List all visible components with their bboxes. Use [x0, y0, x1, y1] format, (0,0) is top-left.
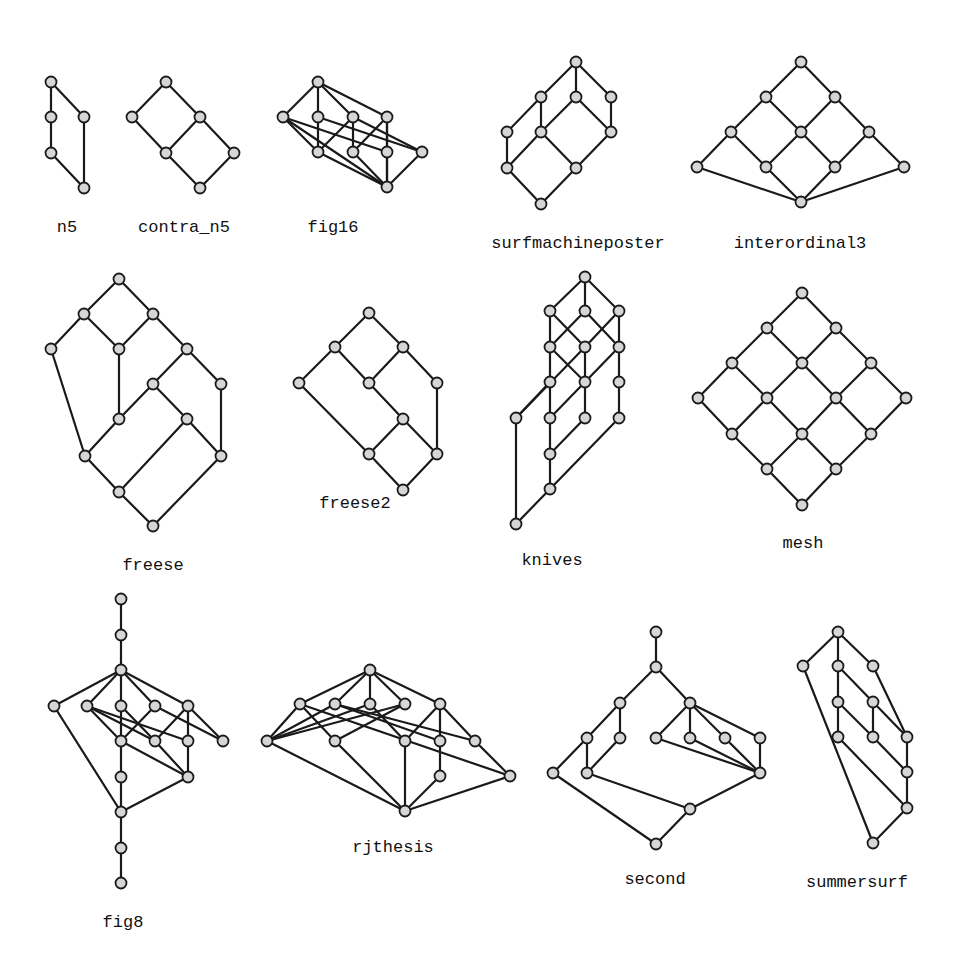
lattice-node — [727, 358, 738, 369]
lattice-node — [116, 807, 127, 818]
lattice-edge — [835, 132, 869, 167]
lattice-node — [435, 736, 446, 747]
lattice-node — [46, 112, 57, 123]
lattice-edge — [869, 132, 904, 167]
lattice-node — [183, 736, 194, 747]
lattice-edge — [200, 117, 234, 153]
lattice-node — [400, 736, 411, 747]
lattice-node — [114, 414, 125, 425]
lattice-node — [511, 413, 522, 424]
lattice-edge — [200, 153, 234, 188]
lattice-node — [116, 594, 127, 605]
lattice-node — [797, 358, 808, 369]
lattice-edge — [507, 97, 541, 132]
lattice-edge — [836, 434, 871, 469]
lattice-edge — [731, 97, 766, 132]
lattice-edge — [369, 419, 403, 454]
diagram-label: contra_n5 — [138, 218, 230, 237]
lattice-edge — [802, 434, 836, 469]
lattice-node — [866, 358, 877, 369]
lattice-node — [901, 393, 912, 404]
lattice-edge — [51, 349, 85, 456]
lattice-edge — [732, 434, 767, 469]
lattice-node — [615, 733, 626, 744]
lattice-node — [796, 127, 807, 138]
lattice-node — [833, 697, 844, 708]
lattice-node — [762, 464, 773, 475]
lattice-edge — [550, 418, 585, 454]
lattice-mesh: mesh — [693, 288, 912, 554]
lattice-edge — [84, 279, 119, 314]
lattice-node — [868, 732, 879, 743]
lattice-node — [382, 182, 393, 193]
lattice-edge — [836, 398, 871, 434]
lattice-node — [614, 342, 625, 353]
lattice-node — [46, 148, 57, 159]
lattice-node — [797, 429, 808, 440]
lattice-edge — [51, 153, 84, 188]
lattice-node — [114, 344, 125, 355]
lattice-edge — [119, 419, 187, 492]
lattice-edge — [155, 741, 188, 777]
lattice-edge — [873, 737, 907, 772]
lattice-edge — [51, 314, 84, 349]
lattice-node — [182, 414, 193, 425]
lattice-node — [278, 112, 289, 123]
lattice-edge — [553, 773, 656, 844]
lattice-summersurf: summersurf — [798, 627, 913, 893]
diagram-label: freese2 — [319, 494, 390, 513]
lattice-edge — [767, 328, 802, 363]
diagram-label: surfmachineposter — [491, 234, 664, 253]
lattice-edge — [732, 328, 767, 363]
lattice-node — [398, 485, 409, 496]
lattice-node — [833, 732, 844, 743]
lattice-edge — [188, 706, 223, 741]
lattice-edge — [507, 168, 541, 204]
lattice-node — [365, 665, 376, 676]
lattice-edge — [802, 293, 836, 328]
lattice-edge — [766, 62, 801, 97]
lattice-node — [868, 661, 879, 672]
lattice-edge — [387, 152, 422, 187]
lattice-node — [868, 838, 879, 849]
lattice-node — [899, 162, 910, 173]
lattice-node — [511, 519, 522, 530]
lattice-node — [313, 147, 324, 158]
lattice-node — [330, 342, 341, 353]
lattice-node — [502, 163, 513, 174]
lattice-node — [364, 378, 375, 389]
lattice-n5: n5 — [46, 77, 90, 238]
lattice-node — [330, 736, 341, 747]
diagram-label: second — [624, 870, 685, 889]
diagram-label: rjthesis — [352, 838, 434, 857]
lattice-node — [571, 57, 582, 68]
lattice-node — [114, 487, 125, 498]
lattice-node — [651, 839, 662, 850]
lattice-edge — [620, 667, 656, 703]
lattice-node — [755, 768, 766, 779]
lattice-node — [313, 112, 324, 123]
lattice-edge — [801, 62, 835, 97]
lattice-edge — [802, 469, 836, 505]
lattice-node — [330, 699, 341, 710]
lattice-edge — [697, 167, 801, 202]
lattice-node — [685, 733, 696, 744]
lattice-edge — [369, 383, 403, 419]
lattice-node — [798, 661, 809, 672]
lattice-node — [148, 521, 159, 532]
lattice-edge — [732, 363, 767, 398]
lattice-node — [651, 733, 662, 744]
lattice-edge — [403, 347, 437, 383]
lattice-node — [548, 768, 559, 779]
lattice-edge — [299, 383, 369, 454]
lattice-edge — [801, 97, 835, 132]
lattice-edge — [153, 384, 187, 419]
lattice-node — [161, 148, 172, 159]
lattice-node — [606, 127, 617, 138]
lattice-node — [127, 112, 138, 123]
lattice-node — [830, 162, 841, 173]
lattice-node — [582, 733, 593, 744]
lattice-node — [571, 92, 582, 103]
lattice-node — [398, 414, 409, 425]
lattice-edge — [85, 419, 119, 456]
